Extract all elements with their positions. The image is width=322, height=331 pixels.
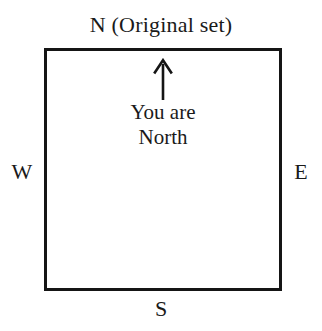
west-label: W bbox=[6, 160, 38, 184]
north-label: N (Original set) bbox=[0, 12, 322, 38]
original-set-square bbox=[44, 48, 282, 291]
east-label: E bbox=[286, 160, 316, 184]
orientation-diagram: N (Original set) You are North W E S bbox=[0, 0, 322, 331]
south-label: S bbox=[0, 297, 322, 321]
